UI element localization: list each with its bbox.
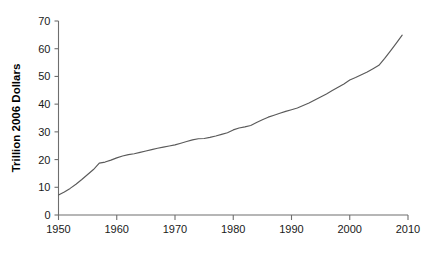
y-tick-label: 30 [38, 126, 50, 138]
y-tick-label: 10 [38, 181, 50, 193]
x-tick-label: 1980 [221, 223, 245, 235]
data-series-group [59, 35, 403, 195]
x-tick-label: 1950 [46, 223, 70, 235]
y-tick-label: 20 [38, 154, 50, 166]
y-tick-label: 50 [38, 70, 50, 82]
y-tick-label: 60 [38, 43, 50, 55]
x-axis: 1950196019701980199020002010 [46, 215, 420, 235]
x-tick-label: 2010 [396, 223, 420, 235]
x-tick-label: 1970 [163, 223, 187, 235]
x-tick-label: 1960 [105, 223, 129, 235]
x-tick-label: 1990 [279, 223, 303, 235]
y-axis-title: Trillion 2006 Dollars [10, 64, 22, 173]
data-line-world-output [59, 35, 403, 195]
y-axis: 010203040506070 [38, 15, 58, 221]
y-tick-label: 0 [44, 209, 50, 221]
x-tick-label: 2000 [338, 223, 362, 235]
y-tick-label: 40 [38, 98, 50, 110]
chart-container: 010203040506070 195019601970198019902000… [0, 0, 432, 259]
line-chart: 010203040506070 195019601970198019902000… [0, 0, 432, 259]
y-tick-label: 70 [38, 15, 50, 27]
